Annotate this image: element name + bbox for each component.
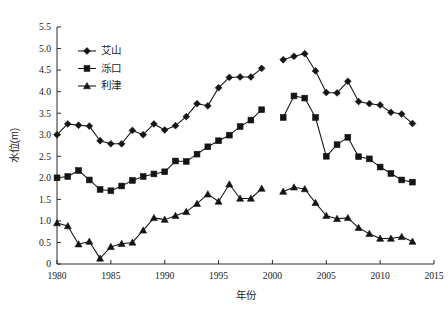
data-point: [226, 132, 232, 138]
data-point: [388, 109, 395, 116]
y-tick-label: 5.0: [39, 43, 51, 54]
data-point: [86, 238, 93, 244]
data-point: [258, 185, 265, 191]
y-tick-label: 1.5: [39, 194, 51, 205]
data-point: [409, 238, 416, 244]
x-tick-label: 2010: [371, 270, 390, 281]
data-point: [410, 179, 416, 185]
data-point: [291, 53, 298, 60]
data-point: [130, 178, 136, 184]
legend-label: 泺口: [101, 62, 121, 74]
y-tick-label: 4.5: [39, 64, 51, 75]
x-tick-label: 1995: [209, 270, 228, 281]
data-point: [248, 117, 254, 123]
data-point: [97, 187, 103, 193]
data-point: [366, 156, 372, 162]
y-tick-label: 1.0: [39, 215, 51, 226]
data-point: [119, 183, 125, 189]
y-tick-label: 3.0: [39, 129, 51, 140]
x-tick-label: 2015: [424, 270, 443, 281]
data-point: [76, 168, 82, 174]
y-tick-label: 2.5: [39, 151, 51, 162]
y-axis-title: 水位(m): [8, 128, 20, 164]
data-point: [312, 68, 319, 75]
water-level-line-chart: 00.51.01.52.02.53.03.54.04.55.05.5198019…: [0, 0, 448, 310]
legend-item-3: 利津: [78, 79, 122, 91]
data-point: [377, 164, 383, 170]
data-point: [65, 174, 71, 180]
data-point: [290, 184, 297, 190]
x-tick-label: 2000: [263, 270, 282, 281]
data-point: [215, 198, 222, 204]
chart-figure: 00.51.01.52.02.53.03.54.04.55.05.5198019…: [0, 0, 448, 310]
data-point: [194, 151, 200, 157]
data-point: [161, 127, 168, 134]
data-point: [150, 214, 157, 220]
data-point: [216, 138, 222, 144]
legend-label: 利津: [101, 79, 122, 91]
data-point: [204, 191, 211, 197]
legend-item-2: 泺口: [78, 62, 121, 74]
data-point: [355, 98, 362, 105]
data-point: [226, 181, 233, 187]
y-tick-label: 0: [46, 258, 51, 269]
data-point: [183, 159, 189, 165]
data-point: [366, 230, 373, 236]
data-point: [356, 154, 362, 160]
y-tick-label: 4.0: [39, 86, 51, 97]
data-point: [345, 134, 351, 140]
data-point: [86, 177, 92, 183]
data-point: [151, 171, 157, 177]
legend: 艾山泺口利津: [78, 44, 122, 91]
data-point: [344, 214, 351, 220]
data-point: [388, 171, 394, 177]
data-point: [54, 175, 60, 181]
y-tick-label: 5.5: [39, 21, 51, 32]
x-axis-title: 年份: [236, 289, 257, 301]
data-point: [162, 169, 168, 175]
data-point: [183, 208, 190, 214]
data-point: [84, 66, 90, 72]
data-point: [291, 93, 297, 99]
y-tick-label: 3.5: [39, 108, 51, 119]
legend-item-1: 艾山: [78, 44, 121, 56]
data-point: [334, 142, 340, 148]
data-point: [280, 188, 287, 194]
data-point: [108, 188, 114, 194]
x-tick-label: 1980: [47, 270, 66, 281]
data-point: [399, 177, 405, 183]
data-point: [323, 153, 329, 159]
legend-label: 艾山: [101, 44, 121, 56]
x-tick-label: 1990: [155, 270, 174, 281]
data-point: [323, 89, 330, 96]
data-point: [75, 122, 82, 129]
series-line: [57, 184, 262, 258]
data-point: [173, 158, 179, 164]
data-point: [205, 144, 211, 150]
x-tick-label: 1985: [101, 270, 120, 281]
data-point: [107, 140, 114, 147]
data-point: [140, 174, 146, 180]
data-point: [237, 124, 243, 130]
data-point: [259, 107, 265, 113]
data-point: [204, 102, 211, 109]
data-point: [377, 102, 384, 109]
data-point: [84, 48, 91, 55]
data-point: [398, 233, 405, 239]
data-point: [280, 56, 287, 63]
data-point: [280, 115, 286, 121]
data-point: [366, 100, 373, 107]
y-tick-label: 0.5: [39, 237, 51, 248]
y-tick-label: 2.0: [39, 172, 51, 183]
data-point: [313, 115, 319, 121]
x-tick-label: 2005: [317, 270, 336, 281]
data-point: [301, 50, 308, 57]
data-point: [302, 95, 308, 101]
data-point: [237, 74, 244, 81]
